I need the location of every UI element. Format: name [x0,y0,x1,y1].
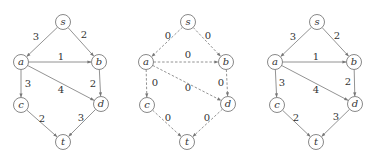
edge-s-a: 0 [152,27,183,56]
node-d: d [348,97,363,112]
edge-s-b: 2 [322,28,348,57]
node-t: t [180,135,195,150]
edge-capacity-label: 1 [58,51,64,62]
edge-a-d: 0 [153,65,221,100]
edge-s-b: 0 [193,27,220,56]
edge-a-d: 4 [28,65,94,100]
edge-capacity-label: 2 [39,113,45,124]
graph-original-capacities: 32134223sabcdt [14,15,109,150]
edge-a-c: 3 [275,69,285,97]
flow-network-diagram: 32134223sabcdt 00000000sabcdt 32134223sa… [0,0,375,159]
node-c: c [140,98,155,113]
edge-capacity-label: 1 [313,51,319,62]
edge-capacity-label: 2 [81,29,87,40]
edge-d-t: 3 [322,109,350,136]
node-s: s [56,15,71,30]
edge-arrow-icon [275,69,276,97]
edge-capacity-label: 0 [204,112,210,123]
edge-capacity-label: 2 [293,112,299,123]
node-label: s [185,16,190,27]
edge-a-b: 1 [29,51,92,63]
edge-capacity-label: 3 [333,111,339,122]
node-label: c [18,99,24,110]
graph-residual: 32134223sabcdt [268,15,363,150]
node-a: a [139,55,154,70]
node-b: b [219,55,234,70]
node-s: s [181,15,196,30]
edge-capacity-label: 4 [313,84,319,95]
node-label: b [223,56,229,67]
edge-b-d: 2 [90,69,101,96]
edge-capacity-label: 2 [345,76,351,87]
edge-capacity-label: 0 [152,77,158,88]
edge-d-t: 0 [193,109,223,136]
node-label: s [60,16,65,27]
edge-s-a: 3 [27,27,58,56]
edge-a-d: 4 [282,65,348,100]
node-a: a [268,55,283,70]
node-b: b [92,55,107,70]
edge-capacity-label: 4 [58,84,64,95]
node-label: c [274,99,280,110]
node-label: a [18,56,24,67]
edge-s-a: 3 [281,27,312,56]
node-d: d [221,97,236,112]
edge-d-t: 3 [69,109,96,136]
edge-capacity-label: 0 [218,77,224,88]
node-b: b [347,55,362,70]
edge-s-b: 2 [68,28,94,56]
edge-capacity-label: 0 [205,30,211,41]
edge-c-t: 2 [282,110,310,136]
node-label: d [352,98,358,109]
edge-arrow-icon [226,69,227,96]
node-t: t [309,135,324,150]
node-label: a [143,56,149,67]
edge-c-t: 0 [153,110,182,136]
node-label: b [96,56,102,67]
edge-capacity-label: 2 [90,78,96,89]
node-label: b [351,56,357,67]
edge-capacity-label: 3 [78,112,84,123]
edge-arrow-icon [99,69,100,96]
edge-a-b: 1 [283,51,347,63]
edge-capacity-label: 3 [33,31,39,42]
edge-a-b: 0 [154,49,219,63]
node-a: a [14,55,29,70]
edge-capacity-label: 0 [185,82,191,93]
edge-capacity-label: 2 [334,30,340,41]
edge-c-t: 2 [27,110,57,137]
node-t: t [56,135,71,150]
edge-capacity-label: 0 [185,49,191,60]
node-s: s [310,15,325,30]
graph-zero-flow: 00000000sabcdt [139,15,236,150]
edge-arrow-icon [27,27,58,56]
node-c: c [270,98,285,113]
edge-capacity-label: 3 [290,31,296,42]
node-c: c [14,98,29,113]
node-label: c [144,99,150,110]
node-label: d [225,98,231,109]
edge-arrow-icon [146,69,147,97]
edge-capacity-label: 3 [279,77,285,88]
edge-b-d: 0 [218,69,228,96]
node-label: d [98,98,104,109]
edge-b-d: 2 [345,69,355,96]
edge-capacity-label: 0 [165,112,171,123]
node-label: a [272,56,278,67]
edge-capacity-label: 3 [25,78,31,89]
edge-arrow-icon [354,69,355,96]
node-d: d [94,97,109,112]
edge-capacity-label: 0 [165,30,171,41]
node-label: s [314,16,319,27]
edge-a-c: 3 [21,70,31,98]
edge-a-c: 0 [146,69,158,97]
